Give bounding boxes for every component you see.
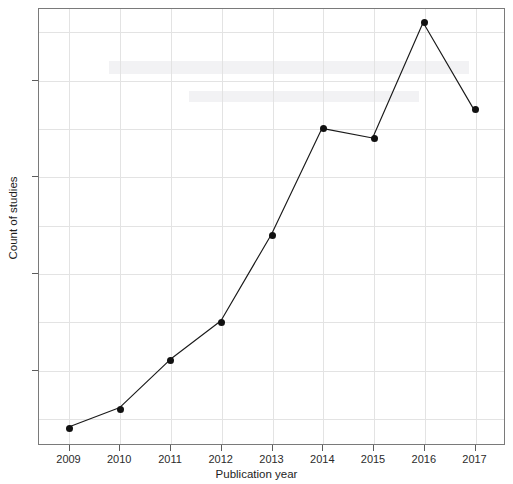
y-tick-mark — [32, 176, 38, 177]
x-tick-label: 2010 — [107, 453, 131, 465]
y-axis-title: Count of studies — [7, 148, 19, 288]
data-point-marker — [167, 357, 174, 364]
x-tick-mark — [322, 445, 323, 451]
x-tick-mark — [119, 445, 120, 451]
data-point-marker — [421, 19, 428, 26]
x-tick-label: 2017 — [462, 453, 486, 465]
data-point-marker — [320, 125, 327, 132]
data-point-marker — [117, 406, 124, 413]
x-tick-mark — [475, 445, 476, 451]
x-tick-label: 2013 — [259, 453, 283, 465]
x-tick-mark — [272, 445, 273, 451]
data-point-marker — [218, 319, 225, 326]
data-point-marker — [371, 135, 378, 142]
x-tick-label: 2015 — [361, 453, 385, 465]
y-tick-mark — [32, 370, 38, 371]
x-tick-mark — [424, 445, 425, 451]
data-point-marker — [66, 425, 73, 432]
x-tick-mark — [69, 445, 70, 451]
x-tick-label: 2012 — [208, 453, 232, 465]
x-tick-mark — [373, 445, 374, 451]
x-tick-label: 2009 — [56, 453, 80, 465]
x-tick-mark — [170, 445, 171, 451]
plot-area — [38, 8, 505, 445]
data-point-marker — [269, 232, 276, 239]
y-tick-mark — [32, 273, 38, 274]
x-tick-label: 2016 — [412, 453, 436, 465]
data-point-marker — [472, 106, 479, 113]
x-tick-mark — [221, 445, 222, 451]
x-tick-label: 2011 — [158, 453, 182, 465]
x-axis-title: Publication year — [0, 468, 513, 480]
data-point-markers — [39, 9, 504, 444]
y-tick-mark — [32, 80, 38, 81]
x-tick-label: 2014 — [310, 453, 334, 465]
line-chart-figure: 10203040 2009201020112012201320142015201… — [0, 0, 513, 484]
